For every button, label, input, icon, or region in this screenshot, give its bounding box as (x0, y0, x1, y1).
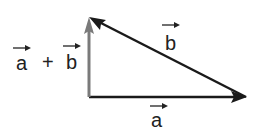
label-a-text: a (151, 109, 163, 131)
label-a: a (150, 103, 168, 131)
label-sum-plus: + (42, 51, 54, 73)
diagram-svg: a b a + b (0, 0, 264, 135)
label-b: b (162, 22, 180, 54)
label-sum: a + b (13, 43, 81, 74)
label-sum-a: a (16, 52, 28, 74)
label-b-text: b (165, 32, 176, 54)
vector-sum (84, 17, 94, 97)
label-sum-b: b (66, 51, 77, 73)
vector-a (89, 91, 247, 103)
vector-diagram: a b a + b (0, 0, 264, 135)
vector-b (89, 17, 246, 97)
